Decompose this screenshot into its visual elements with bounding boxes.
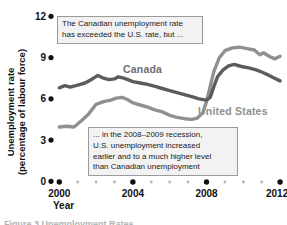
- y-axis-title: Unemployment rate (percentage of labour …: [5, 28, 31, 196]
- y-tick-dot-6: [48, 96, 53, 101]
- figure-unemployment-chart: 0369122000200420082012 Unemployment rate…: [0, 0, 287, 225]
- x-axis-title: Year: [53, 200, 74, 211]
- series-label-canada: Canada: [123, 63, 162, 75]
- y-axis-title-line2: (percentage of labour force): [16, 28, 27, 196]
- x-tick-label-2012: 2012: [266, 188, 287, 199]
- y-tick-dot-9: [48, 55, 53, 60]
- x-tick-label-2000: 2000: [48, 188, 71, 199]
- series-line-canada: [59, 64, 280, 100]
- x-tick-minor-dot-2005: [150, 181, 153, 184]
- x-tick-dot-2000: [57, 179, 62, 184]
- y-tick-dot-3: [48, 137, 53, 142]
- y-tick-label-0: 0: [40, 176, 46, 187]
- x-tick-minor-dot-2010: [242, 181, 245, 184]
- x-tick-label-2004: 2004: [122, 188, 145, 199]
- x-tick-dot-2008: [204, 179, 209, 184]
- x-tick-minor-dot-2002: [95, 181, 98, 184]
- y-axis-title-line1: Unemployment rate: [5, 28, 16, 196]
- annotation-line: U.S. unemployment increased: [93, 141, 233, 152]
- x-tick-minor-dot-2007: [187, 181, 190, 184]
- x-tick-minor-dot-2009: [224, 181, 227, 184]
- annotation-line: earlier and to a much higher level: [93, 152, 233, 163]
- x-tick-label-2008: 2008: [195, 188, 218, 199]
- annotation-line: than Canadian unemployment: [93, 162, 233, 173]
- x-tick-minor-dot-2003: [113, 181, 116, 184]
- y-tick-label-9: 9: [40, 52, 46, 63]
- x-tick-minor-dot-2001: [76, 181, 79, 184]
- y-tick-label-6: 6: [40, 93, 46, 104]
- x-tick-dot-2012: [277, 179, 282, 184]
- y-tick-label-3: 3: [40, 135, 46, 146]
- y-tick-dot-0: [48, 179, 53, 184]
- annotation-line: has exceeded the U.S. rate, but ...: [62, 30, 198, 41]
- x-tick-minor-dot-2006: [168, 181, 171, 184]
- annotation-canada-exceeds: The Canadian unemployment rate has excee…: [57, 16, 203, 44]
- figure-caption-clipped: Figure 3 Unemployment Rates: [4, 219, 279, 225]
- y-tick-label-12: 12: [35, 11, 47, 22]
- series-label-united-states: United States: [198, 105, 268, 117]
- annotation-recession: ... in the 2008–2009 recession, U.S. une…: [88, 127, 238, 176]
- y-tick-dot-12: [48, 14, 53, 19]
- annotation-line: The Canadian unemployment rate: [62, 19, 198, 30]
- annotation-line: ... in the 2008–2009 recession,: [93, 130, 233, 141]
- x-tick-minor-dot-2011: [260, 181, 263, 184]
- x-tick-dot-2004: [130, 179, 135, 184]
